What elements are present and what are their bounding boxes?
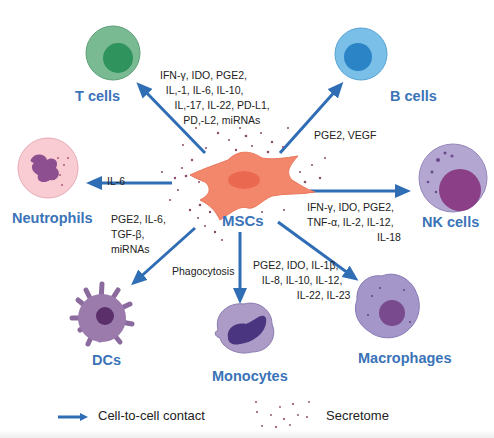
monocyte-icon bbox=[215, 303, 274, 353]
dendritic-cell-icon bbox=[72, 284, 132, 344]
legend-secretome-label: Secretome bbox=[326, 408, 389, 423]
factors-macrophages: PGE2, IDO, IL-1β, IL-8, IL-10, IL-12, IL… bbox=[253, 258, 350, 303]
clipped-caption bbox=[0, 430, 494, 438]
legend-dots-icon bbox=[255, 401, 310, 428]
label-monocytes: Monocytes bbox=[212, 368, 288, 384]
label-dcs: DCs bbox=[92, 352, 121, 368]
nk-cell-icon bbox=[419, 144, 487, 212]
factors-dcs: PGE2, IL-6, TGF-β, miRNAs bbox=[111, 212, 166, 257]
arrow-to-b-cells bbox=[280, 88, 338, 153]
factors-neutrophils: IL-6 bbox=[107, 174, 125, 189]
macrophage-icon bbox=[355, 274, 419, 338]
msc-cell-icon bbox=[190, 152, 315, 220]
factors-t-cells: IFN-γ, IDO, PGE2, IL,-1, IL-6, IL-10, IL… bbox=[160, 68, 270, 128]
label-mscs: MSCs bbox=[222, 212, 264, 229]
label-t-cells: T cells bbox=[75, 88, 120, 104]
factors-b-cells: PGE2, VEGF bbox=[314, 128, 376, 143]
label-nk-cells: NK cells bbox=[422, 214, 479, 230]
label-neutrophils: Neutrophils bbox=[12, 210, 93, 226]
t-cell-icon bbox=[86, 26, 140, 80]
neutrophil-icon bbox=[18, 138, 78, 198]
legend-cell-contact-label: Cell-to-cell contact bbox=[98, 408, 205, 423]
label-macrophages: Macrophages bbox=[358, 350, 451, 366]
label-b-cells: B cells bbox=[390, 88, 437, 104]
factors-nk-cells: IFN-γ, IDO, PGE2, TNF-α, IL-2, IL-12, IL… bbox=[307, 200, 401, 245]
factors-monocytes: Phagocytosis bbox=[172, 264, 234, 279]
b-cell-icon bbox=[335, 28, 387, 80]
diagram-canvas: T cells B cells Neutrophils NK cells DCs… bbox=[0, 0, 494, 438]
